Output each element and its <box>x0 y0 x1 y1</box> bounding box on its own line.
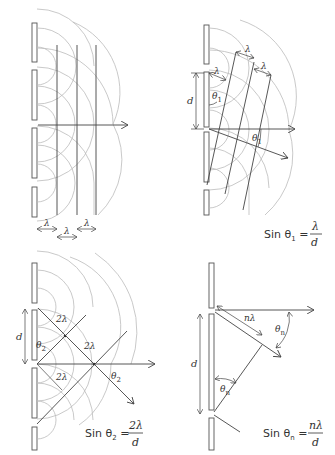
diffraction-grating-diagram: λ λ λ <box>0 0 335 455</box>
theta-label: θ1 <box>252 133 262 146</box>
lambda-label: λ <box>213 66 220 76</box>
equation-nth-order: Sin θn = nλ d <box>263 419 323 449</box>
wavelets <box>37 9 122 221</box>
grating <box>204 25 209 215</box>
n-lambda-label: nλ <box>244 313 256 323</box>
panel-first-order: d λ λ λ θ1 θ1 Sin θ1 = λ d <box>187 20 322 249</box>
lambda-label: λ <box>63 226 70 236</box>
svg-text:d: d <box>312 436 319 449</box>
theta-label: θn <box>220 384 230 397</box>
svg-text:Sin θn =: Sin θn = <box>263 427 307 442</box>
lambda-label: λ <box>83 218 90 228</box>
lambda-label: λ <box>43 218 50 228</box>
panel-zero-order: λ λ λ <box>32 9 128 237</box>
two-lambda-label: 2λ <box>55 314 67 324</box>
equation-first-order: Sin θ1 = λ d <box>264 220 322 249</box>
svg-text:Sin θ1 =: Sin θ1 = <box>264 228 308 243</box>
svg-text:λ: λ <box>311 220 319 233</box>
d-label: d <box>187 95 193 106</box>
theta-label: θ2 <box>36 340 46 353</box>
grating <box>32 23 37 217</box>
panel-nth-order: d nλ θn θn Sin θn = nλ d <box>191 263 323 450</box>
svg-text:Sin θ2 =: Sin θ2 = <box>85 427 129 442</box>
theta-label: θ1 <box>212 91 222 104</box>
theta-label: θn <box>275 324 285 337</box>
grating <box>209 263 214 450</box>
d-label: d <box>191 358 197 369</box>
grating <box>32 263 37 450</box>
wavefronts <box>57 45 96 215</box>
wavelength-markers: λ λ λ <box>37 218 96 237</box>
two-lambda-label: 2λ <box>83 341 95 351</box>
svg-text:nλ: nλ <box>309 419 323 432</box>
panel-second-order: d 2λ 2λ 2λ θ2 θ2 Sin θ2 = 2λ d <box>16 251 155 450</box>
svg-text:d: d <box>311 236 318 249</box>
rays <box>37 308 155 424</box>
d-label: d <box>16 331 22 342</box>
svg-text:2λ: 2λ <box>128 419 143 432</box>
lambda-label: λ <box>260 61 267 71</box>
two-lambda-label: 2λ <box>55 372 67 382</box>
svg-text:d: d <box>132 436 139 449</box>
lambda-label: λ <box>244 44 251 54</box>
equation-second-order: Sin θ2 = 2λ d <box>85 419 143 449</box>
